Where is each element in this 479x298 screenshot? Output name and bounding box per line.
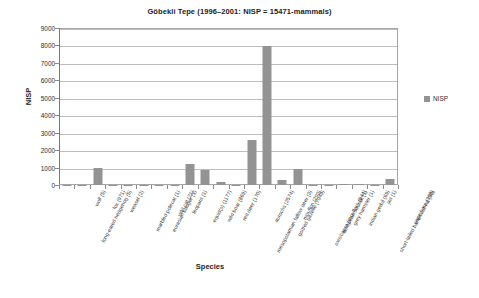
bar-slot xyxy=(198,28,213,185)
bar[interactable] xyxy=(386,179,395,185)
bar-slot xyxy=(306,28,321,185)
bar-slot xyxy=(367,28,382,185)
bar-slot xyxy=(74,28,89,185)
bar[interactable] xyxy=(370,185,379,186)
bar[interactable] xyxy=(185,164,194,185)
bar[interactable] xyxy=(232,185,241,186)
x-tick-mark xyxy=(398,185,399,189)
bar-slot xyxy=(229,28,244,185)
bar[interactable] xyxy=(263,46,272,185)
bar-slot xyxy=(121,28,136,185)
x-axis-title: Species xyxy=(0,262,420,271)
bar-slot xyxy=(213,28,228,185)
bar-slot xyxy=(182,28,197,185)
bar-slot xyxy=(90,28,105,185)
bar[interactable] xyxy=(355,184,364,185)
chart-title: Göbekli Tepe (1996–2001: NISP = 15471-ma… xyxy=(0,7,479,16)
bar[interactable] xyxy=(216,182,225,185)
bar-slot xyxy=(151,28,166,185)
legend-swatch-nisp xyxy=(424,96,430,102)
y-tick-label: 9000 xyxy=(21,25,55,32)
y-tick-label: 8000 xyxy=(21,42,55,49)
bar-slot xyxy=(136,28,151,185)
bar[interactable] xyxy=(247,140,256,185)
bar[interactable] xyxy=(78,185,87,186)
x-tick-label: wolf (5) xyxy=(93,189,106,207)
bar-slot xyxy=(290,28,305,185)
bar[interactable] xyxy=(293,169,302,185)
bar[interactable] xyxy=(139,185,148,186)
bar[interactable] xyxy=(201,170,210,185)
bar-slot xyxy=(352,28,367,185)
bar-slot xyxy=(105,28,120,185)
legend-label-nisp: NISP xyxy=(433,95,448,102)
bar[interactable] xyxy=(93,168,102,185)
bars-layer xyxy=(59,28,398,185)
bar-slot xyxy=(244,28,259,185)
y-tick-label: 2000 xyxy=(21,147,55,154)
bar[interactable] xyxy=(309,185,318,186)
bar-slot xyxy=(259,28,274,185)
bar-slot xyxy=(275,28,290,185)
y-axis-title: NISP xyxy=(24,67,33,127)
y-tick-label: 0 xyxy=(21,182,55,189)
bar[interactable] xyxy=(170,185,179,186)
chart-legend: NISP xyxy=(424,95,448,102)
x-tick-label: cape hare (368) xyxy=(412,189,435,225)
bar[interactable] xyxy=(155,185,164,186)
bar[interactable] xyxy=(62,185,71,186)
y-tick-label: 7000 xyxy=(21,59,55,66)
bar-slot xyxy=(383,28,398,185)
y-tick-label: 1000 xyxy=(21,164,55,171)
bar-slot xyxy=(336,28,351,185)
bar[interactable] xyxy=(278,180,287,185)
x-axis-labels: long-eared hedgehog (5)wolf (5)fox (971)… xyxy=(59,189,398,259)
bar-slot xyxy=(167,28,182,185)
bar[interactable] xyxy=(124,185,133,186)
bar[interactable] xyxy=(324,185,333,186)
bar-slot xyxy=(59,28,74,185)
bar[interactable] xyxy=(340,184,349,185)
chart-container: Göbekli Tepe (1996–2001: NISP = 15471-ma… xyxy=(0,0,479,298)
y-tick-label: 3000 xyxy=(21,129,55,136)
bar[interactable] xyxy=(108,185,117,186)
bar-slot xyxy=(321,28,336,185)
